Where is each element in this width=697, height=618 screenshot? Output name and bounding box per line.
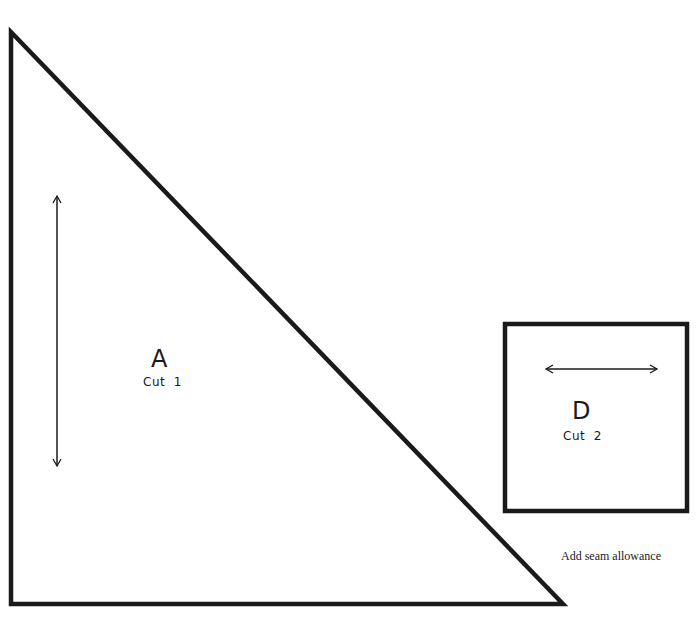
piece-d-letter: D — [572, 399, 590, 423]
pattern-drawing — [0, 0, 697, 618]
piece-a-letter: A — [151, 347, 167, 371]
piece-a-outline — [11, 32, 563, 604]
piece-a-cut-count: Cut 1 — [143, 376, 182, 388]
seam-allowance-note: Add seam allowance — [561, 550, 661, 562]
piece-d-cut-count: Cut 2 — [563, 430, 602, 442]
piece-d-outline — [505, 324, 687, 511]
pattern-sheet: A Cut 1 D Cut 2 Add seam allowance — [0, 0, 697, 618]
